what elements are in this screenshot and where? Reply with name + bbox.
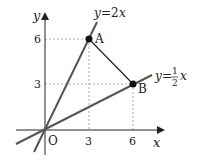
y-tick-6: 6	[34, 33, 41, 46]
point-a	[86, 36, 93, 43]
x-tick-6: 6	[129, 135, 136, 148]
y-axis-label: y	[32, 8, 41, 23]
x-axis-label: x	[153, 135, 161, 150]
point-b	[130, 81, 137, 88]
label-y-2x-eq: =2	[101, 6, 119, 20]
label-y-half-x: y = 1 2 x	[154, 66, 187, 88]
y-tick-3: 3	[34, 78, 41, 91]
label-half-num: 1	[172, 66, 178, 76]
coordinate-diagram: A B O 3 6 x 6 3 y y =2 x y = 1 2 x	[0, 0, 203, 164]
origin-label: O	[48, 134, 58, 148]
point-b-label: B	[138, 82, 147, 96]
label-half-eq: =	[162, 69, 172, 83]
label-y-2x-lhs: y	[93, 6, 101, 20]
label-half-var: x	[180, 69, 187, 83]
x-tick-3: 3	[85, 135, 92, 148]
point-a-label: A	[94, 32, 104, 46]
label-half-den: 2	[172, 78, 178, 88]
guide-lines	[45, 39, 133, 130]
label-y-2x-var: x	[119, 6, 126, 20]
label-y-2x: y =2 x	[93, 6, 126, 20]
label-half-lhs: y	[154, 69, 162, 83]
